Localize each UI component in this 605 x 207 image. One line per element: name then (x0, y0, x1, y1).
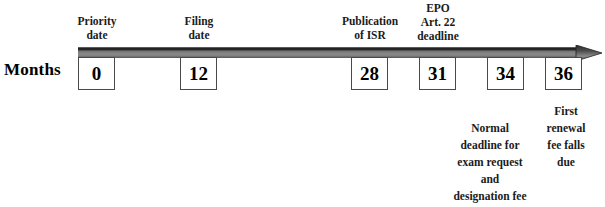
label-line: exam request (435, 154, 545, 171)
month-box-31: 31 (419, 57, 456, 90)
label-line: EPO (401, 1, 475, 15)
label-line: date (62, 28, 132, 42)
label-above-month-12: Filing date (164, 14, 234, 42)
label-below-month-31: Normal deadline for exam request and des… (435, 120, 545, 205)
label-line: date (164, 28, 234, 42)
label-line: First (535, 103, 597, 120)
label-line: designation fee (435, 188, 545, 205)
label-above-month-31: EPO Art. 22 deadline (401, 1, 475, 43)
patent-timeline-diagram: Months (0, 0, 605, 207)
axis-caption-months: Months (4, 60, 76, 80)
label-line: deadline for (435, 137, 545, 154)
label-line: Filing (164, 14, 234, 28)
month-box-34: 34 (487, 57, 524, 90)
label-line: Art. 22 (401, 15, 475, 29)
label-line: Normal (435, 120, 545, 137)
label-line: fee falls (535, 137, 597, 154)
label-line: deadline (401, 29, 475, 43)
label-line: and (435, 171, 545, 188)
label-line: due (535, 154, 597, 171)
label-above-month-0: Priority date (62, 14, 132, 42)
label-below-month-36: First renewal fee falls due (535, 103, 597, 171)
month-box-0: 0 (78, 57, 115, 90)
month-box-36: 36 (545, 57, 582, 90)
label-line: Priority (62, 14, 132, 28)
month-box-12: 12 (180, 57, 217, 90)
label-line: renewal (535, 120, 597, 137)
month-box-28: 28 (351, 57, 388, 90)
